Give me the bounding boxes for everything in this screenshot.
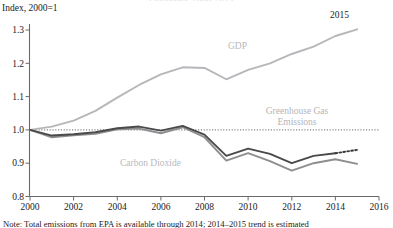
series-line-greenhouse-gas [30,126,335,163]
y-axis-ticks [26,30,30,197]
y-tick-label: 1.0 [0,125,24,135]
x-tick-label: 2000 [10,202,50,212]
x-tick-label: 2010 [228,202,268,212]
y-tick-label: 1.1 [0,92,24,102]
x-tick-label: 2014 [315,202,355,212]
x-tick-label: 2016 [359,202,393,212]
x-tick-label: 2012 [272,202,312,212]
x-tick-label: 2008 [185,202,225,212]
series-label-gdp: GDP [228,41,247,52]
chart-footnote: Note: Total emissions from EPA is availa… [3,219,382,228]
x-tick-label: 2006 [141,202,181,212]
x-axis-ticks [30,197,379,201]
y-tick-label: 0.8 [0,192,24,202]
y-tick-label: 1.2 [0,59,24,69]
series-label-carbon-dioxide: Carbon Dioxide [120,158,181,169]
x-tick-label: 2002 [54,202,94,212]
x-tick-label: 2004 [97,202,137,212]
y-tick-label: 1.3 [0,25,24,35]
series-label-greenhouse-gas-line1: Greenhouse GasEmissions [266,106,329,127]
series-line-greenhouse-gas-estimated [335,150,357,153]
annotation-2015: 2015 [330,10,349,20]
series-label-greenhouse-gas: Greenhouse GasEmissions [243,106,351,127]
y-tick-label: 0.9 [0,158,24,168]
